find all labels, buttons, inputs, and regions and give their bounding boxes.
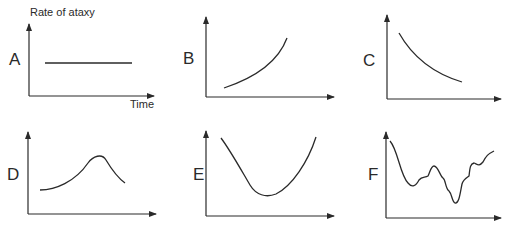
ataxy-rate-diagram: Rate of ataxy A Time B C D E F	[0, 0, 507, 235]
panel-label-f: F	[368, 165, 378, 184]
curve-e	[221, 137, 316, 196]
curve-c	[399, 33, 462, 82]
panel-b: B	[183, 17, 334, 97]
curve-b	[224, 38, 287, 88]
panel-e: E	[193, 131, 334, 216]
panel-c: C	[363, 15, 501, 99]
x-axis-title: Time	[130, 98, 154, 110]
panel-label-e: E	[193, 165, 204, 184]
curve-f	[390, 141, 494, 203]
panel-label-a: A	[9, 50, 21, 69]
panel-label-d: D	[7, 165, 19, 184]
panel-d: D	[7, 132, 156, 214]
panel-a: Rate of ataxy A Time	[9, 6, 154, 110]
panel-label-b: B	[183, 49, 194, 68]
panel-f: F	[368, 132, 501, 218]
y-axis-title: Rate of ataxy	[30, 6, 95, 18]
panel-label-c: C	[363, 51, 375, 70]
curve-d	[40, 156, 125, 190]
